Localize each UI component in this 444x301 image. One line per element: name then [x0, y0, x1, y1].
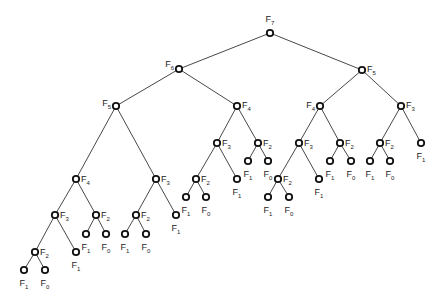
- node-label: F0: [264, 169, 274, 181]
- node-label: F1: [121, 242, 131, 254]
- tree-node-circle: [387, 158, 393, 164]
- tree-node-circle: [214, 140, 220, 146]
- tree-node-circle: [265, 194, 271, 200]
- tree-nodes: [21, 30, 424, 273]
- tree-node-circle: [83, 231, 89, 237]
- tree-node-circle: [133, 212, 139, 218]
- node-label: F4: [81, 174, 91, 186]
- node-label: F0: [386, 169, 396, 181]
- tree-edge: [237, 106, 258, 143]
- node-label: F2: [283, 174, 293, 186]
- node-label: F3: [222, 138, 232, 150]
- node-label: F1: [244, 169, 254, 181]
- tree-node-circle: [398, 103, 404, 109]
- node-label: F2: [345, 138, 355, 150]
- tree-node-circle: [267, 30, 273, 36]
- tree-edge: [278, 143, 299, 179]
- node-label: F3: [406, 100, 416, 112]
- tree-node-circle: [367, 158, 373, 164]
- node-label: F0: [202, 205, 212, 217]
- node-label: F3: [60, 210, 70, 222]
- node-label: F1: [417, 151, 427, 163]
- tree-node-circle: [316, 176, 322, 182]
- node-label: F2: [141, 210, 151, 222]
- tree-node-circle: [348, 158, 354, 164]
- tree-node-circle: [153, 176, 159, 182]
- tree-node-circle: [255, 140, 261, 146]
- tree-edge: [116, 69, 179, 106]
- tree-edge: [270, 33, 362, 70]
- tree-node-circle: [234, 103, 240, 109]
- tree-node-circle: [173, 212, 179, 218]
- tree-edge: [401, 106, 421, 143]
- tree-node-circle: [245, 158, 251, 164]
- tree-node-circle: [183, 194, 189, 200]
- node-label: F5: [367, 64, 377, 76]
- node-label: F1: [20, 278, 30, 290]
- node-label: F2: [101, 210, 111, 222]
- node-label: F4: [242, 100, 252, 112]
- tree-edge: [196, 143, 217, 179]
- tree-edge: [179, 33, 270, 69]
- tree-node-circle: [122, 231, 128, 237]
- fibonacci-recursion-tree: F7F6F5F5F4F4F3F4F3F3F2F3F2F2F1F3F2F2F1F2…: [0, 0, 444, 301]
- tree-labels: F7F6F5F5F4F4F3F4F3F3F2F3F2F2F1F3F2F2F1F2…: [20, 14, 427, 290]
- node-label: F1: [82, 242, 92, 254]
- tree-edge: [320, 70, 362, 106]
- tree-node-circle: [52, 212, 58, 218]
- tree-node-circle: [286, 194, 292, 200]
- tree-node-circle: [176, 66, 182, 72]
- tree-node-circle: [265, 158, 271, 164]
- node-label: F2: [201, 174, 211, 186]
- tree-node-circle: [418, 140, 424, 146]
- tree-node-circle: [32, 249, 38, 255]
- tree-edge: [116, 106, 156, 179]
- node-label: F0: [142, 242, 152, 254]
- tree-node-circle: [103, 231, 109, 237]
- node-label: F0: [102, 242, 112, 254]
- tree-edge: [55, 179, 76, 215]
- tree-node-circle: [275, 176, 281, 182]
- node-label: F3: [161, 174, 171, 186]
- tree-node-circle: [296, 140, 302, 146]
- node-label: F0: [347, 169, 357, 181]
- node-label: F6: [165, 59, 175, 71]
- node-label: F3: [304, 138, 314, 150]
- tree-node-circle: [42, 267, 48, 273]
- tree-edge: [380, 106, 401, 143]
- node-label: F2: [385, 138, 395, 150]
- node-label: F1: [172, 223, 182, 235]
- tree-node-circle: [73, 249, 79, 255]
- tree-node-circle: [327, 158, 333, 164]
- node-label: F5: [102, 98, 112, 110]
- node-label: F1: [264, 205, 274, 217]
- node-label: F1: [72, 260, 82, 272]
- tree-edge: [179, 69, 237, 106]
- tree-edge: [299, 106, 320, 143]
- tree-node-circle: [203, 194, 209, 200]
- node-label: F1: [366, 169, 376, 181]
- node-label: F1: [326, 169, 336, 181]
- tree-node-circle: [193, 176, 199, 182]
- tree-node-circle: [359, 67, 365, 73]
- tree-edge: [76, 106, 116, 179]
- node-label: F4: [306, 100, 316, 112]
- tree-edge: [362, 70, 401, 106]
- tree-node-circle: [337, 140, 343, 146]
- tree-node-circle: [234, 176, 240, 182]
- node-label: F2: [40, 247, 50, 259]
- node-label: F1: [182, 205, 192, 217]
- node-label: F7: [266, 14, 276, 26]
- tree-node-circle: [143, 231, 149, 237]
- node-label: F0: [285, 205, 295, 217]
- node-label: F1: [233, 187, 243, 199]
- node-label: F2: [263, 138, 273, 150]
- tree-node-circle: [317, 103, 323, 109]
- tree-node-circle: [377, 140, 383, 146]
- node-label: F1: [315, 187, 325, 199]
- node-label: F0: [41, 278, 51, 290]
- tree-edge: [320, 106, 340, 143]
- tree-node-circle: [21, 267, 27, 273]
- tree-node-circle: [113, 103, 119, 109]
- tree-node-circle: [73, 176, 79, 182]
